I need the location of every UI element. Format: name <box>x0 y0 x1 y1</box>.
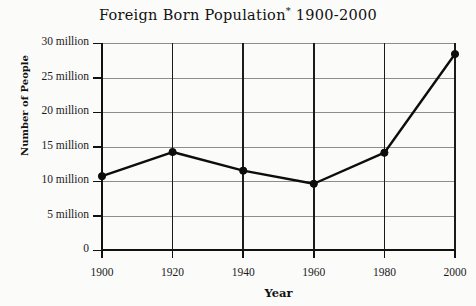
series-polyline <box>102 54 455 184</box>
y-tick-label: 10 million <box>5 173 89 185</box>
y-tick-label: 5 million <box>5 208 89 220</box>
x-tick-mark <box>384 250 386 258</box>
y-tick-label: 30 million <box>5 35 89 47</box>
x-tick-mark <box>313 250 315 258</box>
data-series-line <box>102 43 455 250</box>
y-tick-mark <box>93 43 102 45</box>
y-tick-mark <box>93 112 102 114</box>
x-tick-label: 1960 <box>284 266 344 278</box>
data-point-marker <box>310 180 317 187</box>
y-tick-mark <box>93 181 102 183</box>
x-tick-label: 2000 <box>425 266 476 278</box>
x-tick-mark <box>454 250 456 258</box>
data-point-marker <box>240 167 247 174</box>
chart-figure: Foreign Born Population* 1900-2000 Numbe… <box>0 0 476 306</box>
x-tick-mark <box>101 250 103 258</box>
chart-title-text: Foreign Born Population <box>99 7 286 23</box>
data-point-marker <box>169 148 176 155</box>
x-axis-title: Year <box>102 286 455 300</box>
y-tick-mark <box>93 146 102 148</box>
y-tick-label: 25 million <box>5 70 89 82</box>
x-tick-label: 1920 <box>143 266 203 278</box>
x-tick-mark <box>242 250 244 258</box>
x-tick-label: 1900 <box>72 266 132 278</box>
y-tick-mark <box>93 215 102 217</box>
chart-title-footnote-marker: * <box>286 5 291 16</box>
x-tick-label: 1940 <box>213 266 273 278</box>
y-tick-label: 20 million <box>5 104 89 116</box>
y-tick-mark <box>93 77 102 79</box>
data-point-marker <box>98 173 105 180</box>
plot-area <box>102 43 455 250</box>
chart-title: Foreign Born Population* 1900-2000 <box>0 5 476 23</box>
y-tick-label: 0 <box>5 242 89 254</box>
y-tick-label: 15 million <box>5 139 89 151</box>
data-point-marker <box>381 149 388 156</box>
x-tick-label: 1980 <box>354 266 414 278</box>
data-point-marker <box>451 50 458 57</box>
chart-title-range: 1900-2000 <box>296 7 377 23</box>
x-tick-mark <box>172 250 174 258</box>
